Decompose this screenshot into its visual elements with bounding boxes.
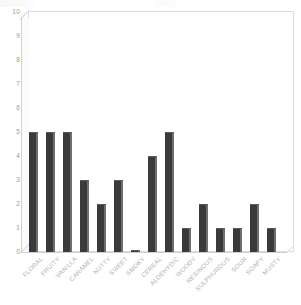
bar-side-face [206, 204, 208, 252]
y-axis-tick-label: 4 [2, 153, 20, 160]
bar [131, 250, 140, 252]
bar-column [267, 228, 276, 252]
y-axis-tick-label: 5 [2, 129, 20, 136]
y-axis-tick-label: 8 [2, 57, 20, 64]
x-axis-labels: FLORALFRUITYVANILLACARAMELNUTTYSWEETSMOK… [21, 253, 287, 305]
bar [97, 204, 106, 252]
bar-column [63, 132, 72, 252]
bar [165, 132, 174, 252]
bar [233, 228, 242, 252]
bar [267, 228, 276, 252]
plot-area [21, 12, 287, 252]
bar-top-face [80, 180, 89, 181]
bar-column [250, 204, 259, 252]
cropped-edge-artifact [0, 0, 301, 7]
bar-top-face [63, 132, 72, 133]
bar-column [80, 180, 89, 252]
bar-side-face [87, 180, 89, 252]
bar-side-face [274, 228, 276, 252]
bar-column [29, 132, 38, 252]
bar-side-face [104, 204, 106, 252]
bar [63, 132, 72, 252]
bar-column [148, 156, 157, 252]
bar-side-face [172, 132, 174, 252]
bar [199, 204, 208, 252]
bar-top-face [131, 250, 140, 251]
bar-chart: 109876543210 FLORALFRUITYVANILLACARAMELN… [0, 0, 301, 305]
plot-depth-line-right [286, 245, 295, 254]
bar-top-face [250, 204, 259, 205]
bar [182, 228, 191, 252]
bar-column [199, 204, 208, 252]
bar-side-face [70, 132, 72, 252]
bar-side-face [189, 228, 191, 252]
bar-column [114, 180, 123, 252]
bar-side-face [53, 132, 55, 252]
bar [80, 180, 89, 252]
bar-side-face [36, 132, 38, 252]
y-axis-tick-label: 6 [2, 105, 20, 112]
bar-column [131, 250, 140, 252]
bar-column [233, 228, 242, 252]
bar-top-face [182, 228, 191, 229]
bar [216, 228, 225, 252]
bar-side-face [121, 180, 123, 252]
bar-top-face [199, 204, 208, 205]
bar-top-face [148, 156, 157, 157]
y-axis-tick-label: 9 [2, 33, 20, 40]
bar-column [46, 132, 55, 252]
bar-column [97, 204, 106, 252]
bar-top-face [97, 204, 106, 205]
bar-side-face [223, 228, 225, 252]
bar [148, 156, 157, 252]
bar-side-face [257, 204, 259, 252]
bar-top-face [29, 132, 38, 133]
bar-top-face [165, 132, 174, 133]
bar [29, 132, 38, 252]
y-axis-tick-label: 1 [2, 225, 20, 232]
y-axis-tick-label: 0 [2, 249, 20, 256]
bar-top-face [267, 228, 276, 229]
bar [46, 132, 55, 252]
bar [114, 180, 123, 252]
bar-column [216, 228, 225, 252]
y-axis: 109876543210 [0, 0, 20, 305]
bar-top-face [114, 180, 123, 181]
bar-column [182, 228, 191, 252]
bar-top-face [46, 132, 55, 133]
y-axis-tick-label: 10 [2, 9, 20, 16]
bar-side-face [240, 228, 242, 252]
y-axis-tick-label: 3 [2, 177, 20, 184]
bar-column [165, 132, 174, 252]
bar [250, 204, 259, 252]
y-axis-tick-label: 7 [2, 81, 20, 88]
bar-side-face [155, 156, 157, 252]
bar-top-face [233, 228, 242, 229]
bar-top-face [216, 228, 225, 229]
y-axis-tick-label: 2 [2, 201, 20, 208]
